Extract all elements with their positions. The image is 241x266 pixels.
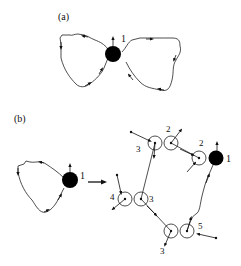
label-mid-left: 4	[110, 192, 115, 202]
diagram: (a) 1 (b) 1	[0, 0, 241, 266]
panel-a-node-label: 1	[121, 33, 126, 44]
panel-b-left-node-1	[62, 172, 78, 188]
panel-a-node-1	[105, 46, 121, 62]
label-bottom-right: 5	[198, 221, 203, 231]
panel-b-label: (b)	[14, 113, 26, 125]
label-bottom-left: 3	[160, 246, 165, 256]
panel-b-left-loop	[18, 161, 64, 212]
panel-b-node-1	[209, 151, 224, 166]
panel-b-left-arrows	[18, 162, 70, 212]
label-top-left-pair: 3	[136, 144, 141, 154]
panel-a-arrows	[61, 36, 176, 90]
panel-a-label: (a)	[58, 11, 69, 23]
label-right-pair: 2	[199, 138, 204, 148]
label-top-pair: 2	[166, 124, 171, 134]
label-big-node: 1	[226, 153, 231, 164]
label-mid-right: 3	[149, 194, 154, 204]
panel-b-left-node-label: 1	[80, 170, 85, 181]
